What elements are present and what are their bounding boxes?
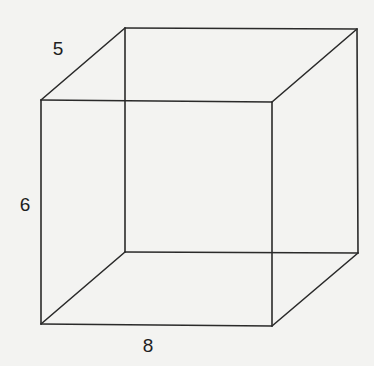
back-right-edge (357, 29, 358, 253)
back-top-edge (125, 28, 357, 29)
cube-diagram: 5 6 8 (0, 0, 374, 366)
bottom-right-depth-edge (272, 253, 358, 326)
front-bottom-edge (41, 324, 272, 326)
front-top-edge (41, 100, 272, 102)
top-right-depth-edge (272, 29, 357, 102)
width-label: 8 (143, 336, 154, 355)
back-bottom-edge (125, 252, 358, 253)
bottom-left-depth-edge (41, 252, 125, 324)
depth-label: 5 (53, 39, 64, 58)
height-label: 6 (20, 195, 31, 214)
